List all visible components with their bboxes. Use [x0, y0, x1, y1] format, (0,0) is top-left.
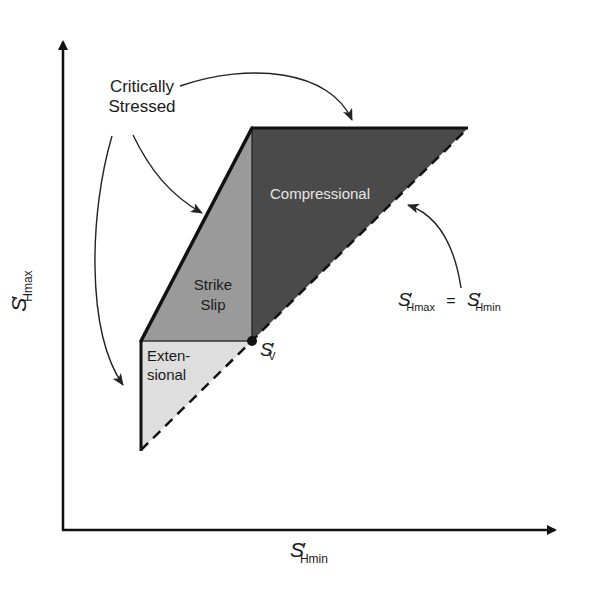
extensional-label: Exten- sional	[147, 348, 190, 383]
strike-slip-label: Strike Slip	[178, 277, 248, 313]
equality-label: S′Hmax = S′Hmin	[398, 290, 501, 310]
stress-polygon-diagram	[0, 0, 590, 592]
critically-stressed-line1: Critically	[92, 78, 192, 96]
extensional-line1: Exten-	[147, 348, 190, 364]
arrow-to-compressional-limit	[180, 73, 352, 120]
sv-label: S′V	[260, 340, 276, 360]
eq-rhs-sub: Hmin	[475, 301, 501, 313]
y-axis-sub: Hmax	[21, 270, 35, 301]
equality-arrow	[408, 205, 461, 288]
eq-sign: =	[446, 292, 455, 309]
sv-point	[247, 336, 257, 346]
strike-slip-line1: Strike	[178, 277, 248, 293]
extensional-line2: sional	[147, 367, 190, 383]
critically-stressed-line2: Stressed	[92, 98, 192, 116]
y-axis-label: S′Hmax	[8, 270, 30, 311]
critically-stressed-label: Critically Stressed	[92, 78, 192, 116]
arrow-to-extensional-limit	[95, 136, 123, 385]
strike-slip-line2: Slip	[178, 297, 248, 313]
compressional-label: Compressional	[270, 186, 370, 202]
arrow-to-strike-slip-limit	[133, 135, 202, 213]
x-axis-sub: Hmin	[300, 552, 328, 566]
x-axis-label: S′Hmin	[290, 539, 328, 561]
sv-sub: V	[268, 350, 275, 362]
eq-lhs-sub: Hmax	[406, 301, 435, 313]
